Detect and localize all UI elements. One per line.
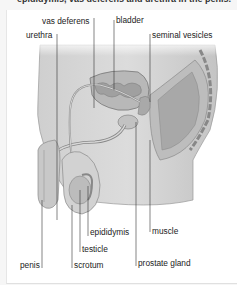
- label-prostate-gland: prostate gland: [138, 258, 191, 268]
- label-scrotum: scrotum: [74, 260, 104, 270]
- label-seminal-vesicles: seminal vesicles: [152, 30, 212, 40]
- label-epididymis: epididymis: [90, 227, 129, 237]
- label-penis: penis: [20, 260, 40, 270]
- label-testicle: testicle: [82, 244, 108, 254]
- label-bladder: bladder: [116, 15, 144, 25]
- anatomy-illustration: [0, 0, 237, 285]
- prostate-shape: [118, 115, 138, 129]
- label-vas-deferens: vas deferens: [42, 16, 90, 26]
- label-urethra: urethra: [26, 30, 52, 40]
- label-muscle: muscle: [152, 226, 178, 236]
